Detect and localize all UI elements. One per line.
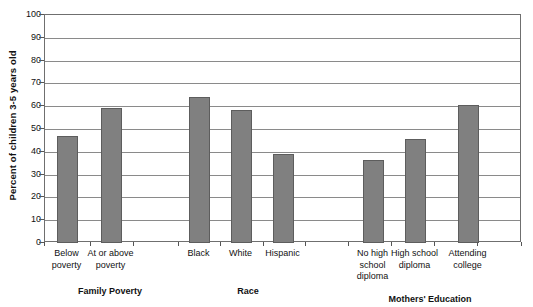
bar [405, 139, 426, 243]
bar [189, 97, 210, 243]
bar-chart: Percent of children 3-5 years old 100908… [0, 0, 533, 307]
group-label: Family Poverty [30, 286, 190, 296]
x-tick-mark [178, 242, 179, 246]
y-tick-label: 60 [17, 101, 41, 110]
x-tick-mark [90, 242, 91, 246]
gridline [45, 38, 520, 39]
bar [57, 136, 78, 243]
x-tick-mark [44, 242, 45, 246]
x-tick-mark [521, 242, 522, 246]
gridline [45, 106, 520, 107]
group-label: Mothers' Education [350, 294, 510, 304]
x-tick-mark [434, 242, 435, 246]
bar [231, 110, 252, 243]
x-tick-mark [133, 242, 134, 246]
x-tick-mark [220, 242, 221, 246]
y-tick-label: 40 [17, 146, 41, 155]
group-label: Race [168, 286, 328, 296]
x-tick-mark [477, 242, 478, 246]
y-tick-label: 10 [17, 215, 41, 224]
category-label: At or above poverty [71, 248, 151, 271]
category-label: Attending college [428, 248, 508, 271]
gridline [45, 61, 520, 62]
y-tick-label: 30 [17, 169, 41, 178]
category-label: Hispanic [243, 248, 323, 260]
y-tick-label: 70 [17, 78, 41, 87]
y-tick-label: 100 [17, 10, 41, 19]
bar [363, 160, 384, 243]
y-axis-title-text: Percent of children 3-5 years old [7, 50, 18, 200]
y-tick-label: 80 [17, 55, 41, 64]
y-tick-label: 20 [17, 192, 41, 201]
x-tick-mark [305, 242, 306, 246]
gridline [45, 83, 520, 84]
bar [273, 154, 294, 243]
y-tick-label: 0 [17, 238, 41, 247]
x-tick-mark [391, 242, 392, 246]
bar [458, 105, 479, 243]
bar [101, 108, 122, 243]
x-tick-mark [263, 242, 264, 246]
y-tick-label: 50 [17, 124, 41, 133]
y-tick-label: 90 [17, 32, 41, 41]
plot-area [44, 14, 521, 242]
x-tick-mark [348, 242, 349, 246]
